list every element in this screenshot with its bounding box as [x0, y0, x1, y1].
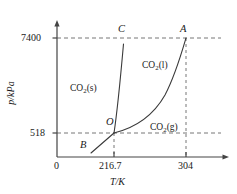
y-axis-title: p/kPa	[6, 71, 16, 115]
x-axis-title: T/K	[110, 177, 125, 187]
x-tick-label-0: 0	[54, 161, 59, 171]
vaporization-curve-OA	[114, 38, 186, 133]
x-tick-label-304: 304	[178, 161, 193, 171]
region-solid-suffix: (s)	[87, 83, 97, 93]
y-tick-label-518: 518	[30, 128, 45, 138]
y-axis-title-wrapper: p/kPa	[2, 72, 18, 116]
region-liquid-prefix: CO	[142, 60, 155, 70]
region-label-gas: CO2(g)	[150, 123, 178, 134]
x-tick-label-216-7: 216.7	[99, 161, 122, 171]
region-label-liquid: CO2(l)	[142, 61, 168, 72]
point-label-B: B	[80, 140, 86, 151]
region-gas-prefix: CO	[150, 122, 163, 132]
sublimation-curve-OB	[91, 133, 114, 153]
y-axis-arrow-icon	[54, 20, 59, 27]
point-label-C: C	[118, 24, 125, 35]
y-tick-label-7400: 7400	[21, 33, 41, 43]
point-label-O: O	[106, 117, 114, 128]
x-axis-arrow-icon	[223, 154, 230, 159]
fusion-curve-OC	[114, 44, 124, 133]
phase-diagram-figure: 7400 518 0 216.7 304 p/kPa T/K CO2(s) CO…	[0, 0, 237, 194]
region-label-solid: CO2(s)	[70, 84, 97, 95]
region-liquid-suffix: (l)	[159, 60, 168, 70]
region-solid-prefix: CO	[70, 83, 83, 93]
region-gas-suffix: (g)	[167, 122, 178, 132]
point-label-A: A	[180, 24, 186, 35]
